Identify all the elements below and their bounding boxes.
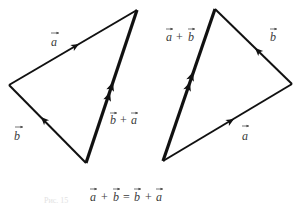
equation-term: b [113,190,119,204]
edge-vector-a-right [163,84,292,161]
equation-term: b [134,190,140,204]
left-triangle [9,10,137,163]
label-b-plus-a: b + a [110,112,138,127]
label-text: a [166,30,172,44]
label-text: a [51,35,57,49]
label-text: b [270,30,276,44]
equation-plus: + [145,190,152,204]
edge-vector-a-left [9,10,137,85]
label-a-plus-b: a + b [166,28,195,44]
equation-plus: + [101,190,108,204]
vector-arrow-tip [21,126,24,128]
label-text: b [188,30,194,44]
plus-sign: + [120,113,127,127]
label-b-right: b [270,28,277,44]
edge-vector-b-right [215,9,292,84]
vector-arrow-tip [57,32,60,34]
label-b-left: b [14,126,23,143]
equation-equals: = [123,190,130,204]
equation-term: a [90,190,96,204]
faint-caption: Рис. 15 [44,196,68,205]
plus-sign: + [176,30,183,44]
edge-vector-b-left [9,85,86,163]
label-a-right: a [242,125,249,143]
label-text: a [131,113,137,127]
label-text: b [110,113,116,127]
vector-arrow-tip [247,125,250,127]
vector-addition-diagram: a b b + a a + b b a a + [0,0,303,206]
label-text: b [14,129,20,143]
label-a-left: a [51,32,59,49]
arrowhead-a-left [70,41,80,51]
label-text: a [242,129,248,143]
equation-term: a [156,190,162,204]
equation: a + b = b + a [90,188,163,204]
